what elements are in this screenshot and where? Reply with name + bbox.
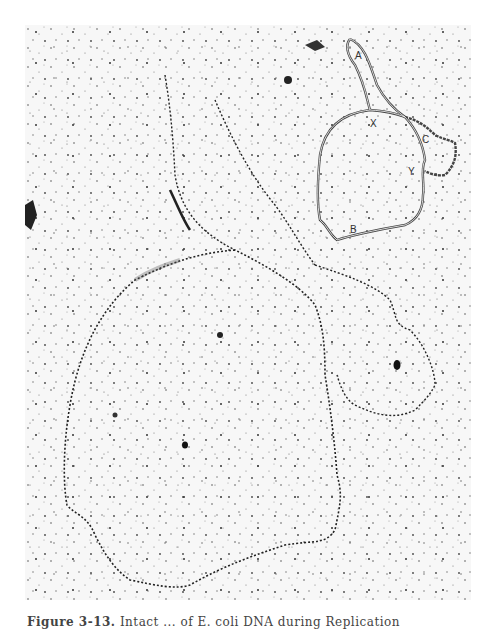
micrograph-plate: A X C Y B: [25, 25, 471, 600]
figure-caption: Figure 3-13. Intact ... of E. coli DNA d…: [27, 615, 400, 629]
micrograph-svg: A X C Y B: [25, 25, 471, 600]
caption-number: Figure 3-13.: [27, 615, 116, 629]
inset-label-x: X: [370, 118, 377, 129]
inset-label-y: Y: [408, 166, 415, 177]
caption-text: Intact ... of E. coli DNA during Replica…: [120, 615, 400, 629]
inset-label-b: B: [350, 224, 357, 235]
inset-label-a: A: [355, 50, 362, 61]
inset-label-c: C: [422, 134, 429, 145]
